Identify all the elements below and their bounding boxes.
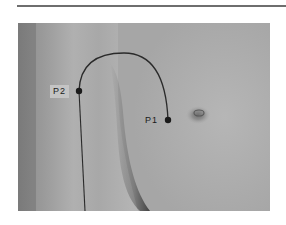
point-p1-marker — [165, 117, 171, 123]
nipple — [186, 106, 210, 124]
point-p2-marker — [76, 88, 82, 94]
background-edge — [18, 23, 36, 211]
point-p1-label: P1 — [142, 114, 161, 127]
point-p2-label: P2 — [50, 85, 69, 98]
descending-line — [79, 91, 85, 211]
top-rule — [17, 5, 286, 7]
clinical-photo: P2 P1 — [18, 23, 270, 211]
